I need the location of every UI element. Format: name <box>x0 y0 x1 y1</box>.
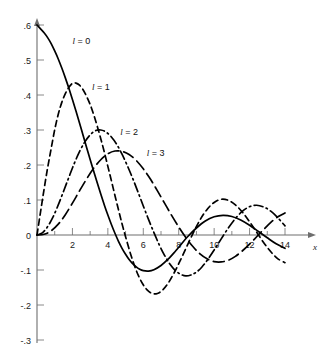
y-tick-label: 0 <box>26 231 31 241</box>
x-tick-label: 2 <box>70 240 75 250</box>
y-tick-label: .4 <box>23 91 31 101</box>
y-tick-label: .1 <box>23 196 31 206</box>
axis-ticks-group <box>37 25 285 340</box>
y-axis-tick-labels: .6.5.4.3.2.10-.1-.2-.3 <box>20 21 31 346</box>
y-tick-label: .2 <box>23 161 31 171</box>
series-curve-l1 <box>37 83 285 294</box>
y-tick-label: .5 <box>23 56 31 66</box>
x-axis-arrowhead <box>308 232 316 238</box>
chart-svg: .6.5.4.3.2.10-.1-.2-.3 2468101214 l = 0l… <box>0 0 330 359</box>
y-tick-label: -.2 <box>20 301 31 311</box>
y-tick-label: -.3 <box>20 336 31 346</box>
series-label-l2: l = 2 <box>120 127 138 137</box>
x-tick-label: 4 <box>105 240 110 250</box>
axis-lines-group <box>34 18 316 343</box>
series-curves-group <box>37 25 285 294</box>
bessel-function-chart: .6.5.4.3.2.10-.1-.2-.3 2468101214 l = 0l… <box>0 0 330 359</box>
x-tick-label: 6 <box>141 240 146 250</box>
series-label-symbol: l <box>120 127 123 137</box>
y-tick-label: .3 <box>23 126 31 136</box>
y-tick-label: -.1 <box>20 266 31 276</box>
series-label-l1: l = 1 <box>92 82 110 92</box>
series-label-l3: l = 3 <box>147 148 165 158</box>
series-label-l0: l = 0 <box>72 36 90 46</box>
x-axis-title: x <box>312 242 317 252</box>
series-label-symbol: l <box>147 148 150 158</box>
series-label-symbol: l <box>72 36 75 46</box>
y-tick-label: .6 <box>23 21 31 31</box>
series-label-symbol: l <box>92 82 95 92</box>
